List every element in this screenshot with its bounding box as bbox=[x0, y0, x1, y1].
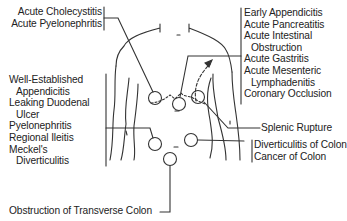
label-acute-gastritis: Acute Gastritis bbox=[244, 53, 332, 65]
label-lymphadenitis: Lymphadenitis bbox=[244, 77, 332, 89]
label-acute-cholecystitis: Acute Cholecystitis bbox=[11, 6, 102, 18]
group-left-labels: Well-Established Appendicitis Leaking Du… bbox=[9, 74, 90, 167]
label-cancer-of-colon: Cancer of Colon bbox=[254, 151, 347, 163]
label-acute-mesenteric: Acute Mesenteric bbox=[244, 65, 332, 77]
group-splenic-label: Splenic Rupture bbox=[261, 122, 332, 134]
label-well-established: Well-Established bbox=[9, 74, 90, 86]
label-meckels: Meckel's bbox=[9, 144, 90, 156]
label-early-appendicitis: Early Appendicitis bbox=[244, 7, 332, 19]
label-leaking-duodenal: Leaking Duodenal bbox=[9, 97, 90, 109]
group-upper-right-labels: Early Appendicitis Acute Pancreatitis Ac… bbox=[244, 7, 332, 100]
label-acute-pancreatitis: Acute Pancreatitis bbox=[244, 19, 332, 31]
label-obstruction: Obstruction bbox=[244, 42, 332, 54]
label-coronary-occlusion: Coronary Occlusion bbox=[244, 88, 332, 100]
label-diverticulitis: Diverticulitis bbox=[9, 155, 90, 167]
label-splenic-rupture: Splenic Rupture bbox=[261, 122, 332, 134]
label-obstruction-of-transverse-colon: Obstruction of Transverse Colon bbox=[9, 205, 152, 217]
group-bottom-label: Obstruction of Transverse Colon bbox=[9, 205, 152, 217]
label-regional-ileitis: Regional Ileitis bbox=[9, 132, 90, 144]
label-ulcer: Ulcer bbox=[9, 109, 90, 121]
label-pyelonephritis: Pyelonephritis bbox=[9, 120, 90, 132]
label-diverticulitis-of-colon: Diverticulitis of Colon bbox=[254, 139, 347, 151]
label-appendicitis: Appendicitis bbox=[9, 86, 90, 98]
label-acute-intestinal: Acute Intestinal bbox=[244, 30, 332, 42]
label-acute-pyelonephritis: Acute Pyelonephritis bbox=[11, 18, 102, 30]
group-lower-right-labels: Diverticulitis of Colon Cancer of Colon bbox=[254, 139, 347, 162]
group-upper-left-labels: Acute Cholecystitis Acute Pyelonephritis bbox=[11, 6, 102, 29]
